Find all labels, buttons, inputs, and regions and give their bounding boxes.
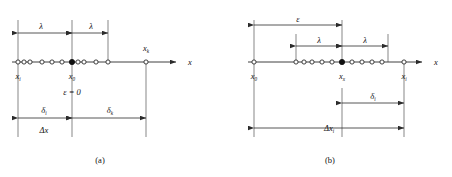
lattice-site <box>50 60 54 64</box>
lattice-site <box>82 60 86 64</box>
lattice-site <box>16 60 20 64</box>
lattice-site-origin-filled <box>339 59 344 64</box>
lattice-site <box>76 60 80 64</box>
label-epsilon: ε <box>296 14 300 24</box>
lattice-site <box>402 60 406 64</box>
lattice-site <box>40 60 44 64</box>
label-x-i: xi <box>14 71 21 82</box>
label-x-0: x0 <box>250 71 258 82</box>
lattice-site <box>106 60 110 64</box>
lattice-site <box>94 60 98 64</box>
label-x-i: xi <box>400 71 407 82</box>
label-lambda-right: λ <box>88 21 93 31</box>
lattice-site <box>350 60 354 64</box>
panel-b-caption: (b) <box>325 155 335 165</box>
label-lambda-right: λ <box>362 35 367 45</box>
lattice-site <box>330 60 334 64</box>
label-x-0: x0 <box>68 71 76 82</box>
panel-b: ε λ λ x x0 xx xi δi Δxi (b) <box>226 0 452 177</box>
lattice-site <box>370 60 374 64</box>
label-delta-i: δi <box>41 105 47 116</box>
lattice-site <box>294 60 298 64</box>
label-delta-i: δi <box>370 91 376 102</box>
panel-a: λ λ x xi x0 xk ε = 0 δi δk Δx (a) <box>0 0 226 177</box>
panel-b-figure: ε λ λ x x0 xx xi δi Δxi (b) <box>226 0 452 177</box>
lattice-site <box>144 60 148 64</box>
label-delta-x: Δx <box>39 125 49 135</box>
label-x-x: xx <box>338 71 346 82</box>
lattice-site <box>28 60 32 64</box>
lattice-site <box>380 60 384 64</box>
label-delta-k: δk <box>107 105 114 116</box>
panel-b-axis-label: x <box>433 57 438 67</box>
lattice-site <box>320 60 324 64</box>
lattice-site <box>22 60 26 64</box>
label-epsilon-zero: ε = 0 <box>63 87 81 97</box>
label-lambda-left: λ <box>38 21 43 31</box>
label-x-k: xk <box>142 43 150 54</box>
panel-a-reference-lines <box>18 20 146 137</box>
panel-a-caption: (a) <box>95 155 105 165</box>
lattice-site <box>302 60 306 64</box>
lattice-site-origin-filled <box>69 59 74 64</box>
label-lambda-left: λ <box>316 35 321 45</box>
panel-b-reference-lines <box>254 20 404 137</box>
lattice-site <box>310 60 314 64</box>
lattice-site <box>360 60 364 64</box>
panel-a-figure: λ λ x xi x0 xk ε = 0 δi δk Δx (a) <box>0 0 226 177</box>
lattice-site <box>60 60 64 64</box>
label-delta-x-i: Δxi <box>323 123 335 134</box>
lattice-site <box>252 60 256 64</box>
panel-a-axis-label: x <box>187 57 192 67</box>
